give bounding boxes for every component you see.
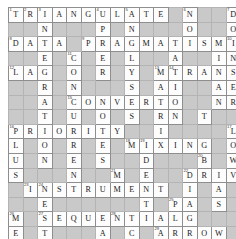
crossword-cell-filled[interactable]: S — [226, 66, 236, 81]
crossword-cell-filled[interactable]: 27S — [38, 212, 53, 227]
crossword-cell-filled[interactable]: C — [125, 226, 140, 239]
crossword-cell-filled[interactable]: E — [52, 212, 67, 227]
crossword-cell-filled[interactable]: 25P — [168, 197, 183, 212]
crossword-cell-filled[interactable]: 3I — [38, 8, 53, 23]
crossword-cell-filled[interactable]: T — [139, 197, 154, 212]
crossword-cell-filled[interactable]: T — [96, 124, 111, 139]
crossword-cell-filled[interactable]: U — [81, 212, 96, 227]
crossword-cell-filled[interactable]: T — [67, 183, 82, 198]
crossword-cell-filled[interactable]: E — [9, 226, 24, 239]
crossword-cell-filled[interactable]: N — [183, 139, 198, 154]
crossword-cell-filled[interactable]: 15C — [67, 95, 82, 110]
crossword-cell-filled[interactable]: M — [110, 183, 125, 198]
crossword-cell-filled[interactable]: A — [38, 95, 53, 110]
crossword-cell-filled[interactable]: R — [67, 139, 82, 154]
crossword-cell-filled[interactable]: G — [183, 212, 198, 227]
crossword-cell-filled[interactable]: S — [125, 80, 140, 95]
crossword-cell-filled[interactable]: O — [52, 124, 67, 139]
crossword-cell-filled[interactable]: 26M — [9, 212, 24, 227]
crossword-cell-filled[interactable]: 10I — [226, 37, 236, 52]
crossword-cell-filled[interactable]: N — [67, 168, 82, 183]
crossword-cell-filled[interactable]: N — [139, 183, 154, 198]
crossword-cell-filled[interactable]: T — [38, 226, 53, 239]
crossword-cell-filled[interactable]: L — [125, 51, 140, 66]
crossword-cell-filled[interactable]: E — [125, 95, 140, 110]
crossword-cell-filled[interactable]: V — [110, 95, 125, 110]
crossword-cell-filled[interactable]: E — [125, 183, 140, 198]
crossword-cell-filled[interactable]: A — [197, 66, 212, 81]
crossword-cell-filled[interactable]: S — [52, 183, 67, 198]
crossword-cell-filled[interactable]: G — [38, 66, 53, 81]
crossword-cell-filled[interactable]: N — [226, 51, 236, 66]
crossword-cell-filled[interactable]: A — [212, 80, 227, 95]
crossword-cell-filled[interactable]: D — [139, 153, 154, 168]
crossword-cell-filled[interactable]: I — [168, 139, 183, 154]
crossword-cell-filled[interactable]: S — [197, 37, 212, 52]
crossword-cell-filled[interactable]: W — [212, 226, 227, 239]
crossword-cell-filled[interactable]: O — [96, 110, 111, 125]
crossword-cell-filled[interactable]: T — [197, 110, 212, 125]
crossword-cell-filled[interactable]: I — [38, 124, 53, 139]
crossword-cell-filled[interactable]: E — [96, 139, 111, 154]
crossword-grid[interactable]: 1T2R3IANG4UL5ATE6N7DNPNOO8DATA9PRAGMATIS… — [8, 7, 236, 239]
crossword-cell-filled[interactable]: 8D — [9, 37, 24, 52]
crossword-cell-filled[interactable]: 23I — [23, 183, 38, 198]
crossword-cell-filled[interactable]: A — [154, 80, 169, 95]
crossword-cell-filled[interactable]: O — [38, 139, 53, 154]
crossword-cell-filled[interactable]: A — [154, 212, 169, 227]
crossword-cell-filled[interactable]: N — [67, 8, 82, 23]
crossword-cell-filled[interactable]: G — [197, 139, 212, 154]
crossword-cell-filled[interactable]: I — [183, 37, 198, 52]
crossword-cell-filled[interactable]: A — [52, 37, 67, 52]
crossword-cell-filled[interactable]: I — [139, 212, 154, 227]
crossword-cell-filled[interactable]: L — [110, 8, 125, 23]
crossword-cell-filled[interactable]: R — [197, 168, 212, 183]
crossword-cell-filled[interactable]: R — [154, 110, 169, 125]
crossword-cell-filled[interactable]: Y — [110, 124, 125, 139]
crossword-cell-filled[interactable]: I — [212, 168, 227, 183]
crossword-cell-filled[interactable]: 11C — [67, 51, 82, 66]
crossword-cell-filled[interactable]: 7D — [226, 8, 236, 23]
crossword-cell-filled[interactable]: E — [67, 153, 82, 168]
crossword-cell-filled[interactable]: N — [212, 95, 227, 110]
crossword-cell-filled[interactable]: O — [183, 22, 198, 37]
crossword-cell-filled[interactable]: O — [226, 22, 236, 37]
crossword-cell-filled[interactable]: R — [226, 95, 236, 110]
crossword-cell-filled[interactable]: 1T — [9, 8, 24, 23]
crossword-cell-filled[interactable]: A — [52, 8, 67, 23]
crossword-cell-filled[interactable]: R — [183, 66, 198, 81]
crossword-cell-filled[interactable]: 6N — [183, 8, 198, 23]
crossword-cell-filled[interactable]: T — [125, 212, 140, 227]
crossword-cell-filled[interactable]: P — [96, 22, 111, 37]
crossword-cell-filled[interactable]: I — [81, 124, 96, 139]
crossword-cell-filled[interactable]: X — [154, 139, 169, 154]
crossword-cell-filled[interactable]: A — [110, 37, 125, 52]
crossword-cell-filled[interactable]: S — [125, 110, 140, 125]
crossword-cell-filled[interactable]: V — [226, 168, 236, 183]
crossword-cell-filled[interactable]: R — [81, 183, 96, 198]
crossword-cell-filled[interactable]: N — [67, 80, 82, 95]
crossword-cell-filled[interactable]: L — [9, 139, 24, 154]
crossword-cell-filled[interactable]: R — [23, 124, 38, 139]
crossword-cell-filled[interactable]: T — [38, 37, 53, 52]
crossword-cell-filled[interactable]: 22D — [183, 168, 198, 183]
crossword-cell-filled[interactable]: O — [81, 95, 96, 110]
crossword-cell-filled[interactable]: E — [96, 51, 111, 66]
crossword-cell-filled[interactable]: A — [23, 66, 38, 81]
crossword-cell-filled[interactable]: O — [67, 66, 82, 81]
crossword-cell-filled[interactable]: A — [183, 197, 198, 212]
crossword-cell-filled[interactable]: 18M — [125, 139, 140, 154]
crossword-cell-filled[interactable]: U — [67, 110, 82, 125]
crossword-cell-filled[interactable]: N — [96, 95, 111, 110]
crossword-cell-filled[interactable]: 2R — [23, 8, 38, 23]
crossword-cell-filled[interactable]: 13M — [154, 66, 169, 81]
crossword-cell-filled[interactable]: E — [226, 80, 236, 95]
crossword-cell-filled[interactable]: 14T — [168, 66, 183, 81]
crossword-cell-filled[interactable]: W — [226, 153, 236, 168]
crossword-cell-filled[interactable]: T — [168, 37, 183, 52]
crossword-cell-filled[interactable]: O — [197, 226, 212, 239]
crossword-cell-filled[interactable]: 16P — [9, 124, 24, 139]
crossword-cell-filled[interactable]: Q — [67, 212, 82, 227]
crossword-cell-filled[interactable]: R — [96, 37, 111, 52]
crossword-cell-filled[interactable]: 20B — [197, 153, 212, 168]
